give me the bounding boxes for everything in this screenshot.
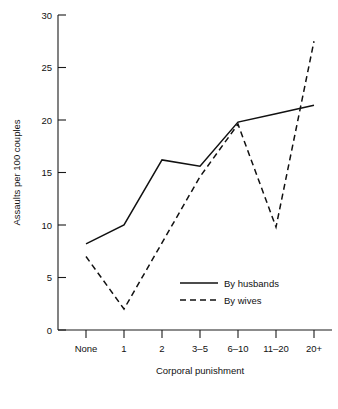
y-axis-ticks <box>58 15 66 330</box>
y-tick-label: 20 <box>41 115 52 126</box>
x-tick-label: 11–20 <box>263 343 289 354</box>
x-axis-title: Corporal punishment <box>156 365 245 376</box>
x-tick-label: 20+ <box>306 343 323 354</box>
y-tick-label: 5 <box>47 272 52 283</box>
x-tick-label: None <box>75 343 98 354</box>
series-line-by-husbands <box>86 105 314 244</box>
x-tick-label: 1 <box>121 343 126 354</box>
legend-label-by-husbands: By husbands <box>224 278 279 289</box>
y-axis-tick-labels: 30 25 20 15 10 5 0 <box>41 10 52 336</box>
x-axis-ticks <box>86 330 314 338</box>
y-tick-label: 15 <box>41 167 52 178</box>
y-tick-label: 10 <box>41 220 52 231</box>
series-line-by-wives <box>86 41 314 309</box>
chart-container: 30 25 20 15 10 5 0 Assaults per 100 coup… <box>0 0 338 409</box>
x-tick-label: 6–10 <box>227 343 248 354</box>
x-axis-tick-labels: None 1 2 3–5 6–10 11–20 20+ <box>75 343 323 354</box>
legend: By husbands By wives <box>180 278 279 306</box>
x-tick-label: 2 <box>159 343 164 354</box>
legend-label-by-wives: By wives <box>224 295 262 306</box>
line-chart: 30 25 20 15 10 5 0 Assaults per 100 coup… <box>0 0 338 409</box>
y-axis-title: Assaults per 100 couples <box>11 119 22 225</box>
y-tick-label: 30 <box>41 10 52 21</box>
x-tick-label: 3–5 <box>192 343 208 354</box>
y-tick-label: 0 <box>47 325 52 336</box>
y-tick-label: 25 <box>41 62 52 73</box>
